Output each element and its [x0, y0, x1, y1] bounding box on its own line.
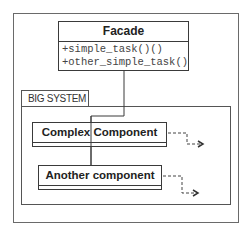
- method-simple-task: +simple_task()(): [62, 43, 185, 56]
- another-component-title: Another component: [39, 166, 161, 186]
- facade-title: Facade: [59, 22, 188, 42]
- another-component-class: Another component: [38, 165, 162, 190]
- facade-class: Facade +simple_task()() +other_simple_ta…: [58, 21, 189, 71]
- complex-component-class: Complex Component: [32, 122, 167, 147]
- facade-methods: +simple_task()() +other_simple_task(): [59, 42, 188, 70]
- complex-component-title: Complex Component: [33, 123, 166, 143]
- method-other-simple-task: +other_simple_task(): [62, 56, 185, 69]
